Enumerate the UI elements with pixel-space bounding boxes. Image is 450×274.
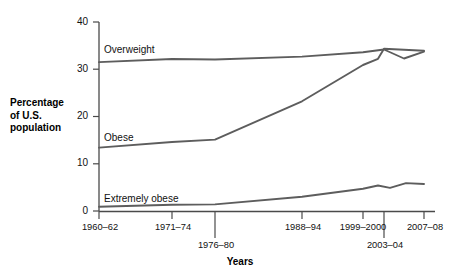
series-label-overweight: Overweight: [104, 44, 155, 55]
y-tick-label-10: 10: [66, 157, 88, 168]
x-tick-label-1999-2000: 1999–2000: [327, 222, 399, 232]
x-tick-label-2003-04: 2003–04: [355, 240, 415, 250]
chart-plot-area: [0, 0, 450, 274]
y-axis-title-line-1: Percentage: [10, 97, 64, 110]
x-tick-label-1976-80: 1976–80: [186, 240, 246, 250]
y-axis-title-line-2: of U.S.: [10, 110, 64, 123]
y-tick-label-40: 40: [66, 16, 88, 27]
y-tick-label-0: 0: [66, 205, 88, 216]
series-label-obese: Obese: [104, 132, 133, 143]
x-axis-title: Years: [205, 256, 275, 269]
x-tick-label-2007-08: 2007–08: [395, 222, 450, 232]
x-tick-label-1988-94: 1988–94: [273, 222, 333, 232]
x-tick-label-1960-62: 1960–62: [70, 222, 130, 232]
y-axis-title-line-3: population: [10, 122, 64, 135]
series-label-extremely-obese: Extremely obese: [104, 193, 178, 204]
y-tick-label-30: 30: [66, 63, 88, 74]
y-tick-label-20: 20: [66, 110, 88, 121]
x-tick-label-1971-74: 1971–74: [143, 222, 203, 232]
obesity-trends-chart: 40 30 20 10 0 1960–62 1971–74 1988–94 19…: [0, 0, 450, 274]
series-line-obese: [99, 49, 424, 148]
y-axis-title: Percentage of U.S. population: [10, 97, 64, 135]
